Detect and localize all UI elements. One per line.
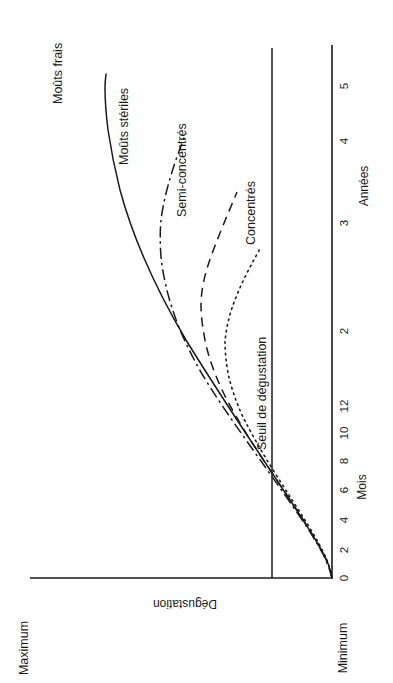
tick-year-2: 2 (338, 328, 350, 334)
curve-label-semi-concentres: Semi-concentrés (175, 123, 189, 217)
curve-concentres (225, 247, 332, 578)
chart-canvas: Moûts frais Moûts stériles Semi-concentr… (0, 0, 393, 683)
tick-month-2: 2 (338, 547, 350, 553)
curve-label-concentres: Concentrés (244, 181, 258, 245)
tick-month-0: 0 (338, 575, 350, 581)
axis-name-tasting: Dégustation (153, 597, 217, 611)
axis-name-years: Années (357, 166, 371, 207)
threshold-label: Seuil de dégustation (255, 337, 269, 450)
curve-label-mouts-steriles: Moûts stériles (117, 88, 131, 165)
tick-month-12: 12 (338, 400, 350, 413)
scale-label-maximum: Maximum (17, 621, 31, 675)
tick-month-6: 6 (338, 487, 350, 493)
tick-month-8: 8 (338, 458, 350, 464)
tick-year-5: 5 (338, 83, 350, 89)
rotated-line-chart-figure: Moûts frais Moûts stériles Semi-concentr… (0, 0, 393, 683)
tick-year-4: 4 (338, 137, 350, 144)
tick-month-10: 10 (338, 427, 350, 440)
scale-label-minimum: Minimum (336, 623, 350, 674)
curve-label-mouts-frais: Moûts frais (51, 43, 65, 104)
tick-month-4: 4 (338, 516, 350, 523)
curve-mouts-frais (105, 74, 332, 578)
axis-name-months: Mois (355, 474, 369, 499)
tick-year-3: 3 (338, 220, 350, 226)
